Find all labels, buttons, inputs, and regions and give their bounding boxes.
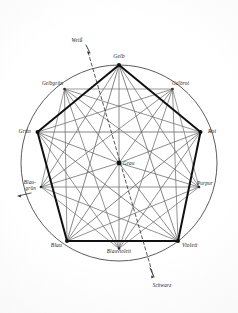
center-node-grau[interactable] [117, 161, 122, 166]
vertex-node-gelbgrün[interactable] [63, 88, 66, 91]
vertex-node-gelbrot[interactable] [171, 88, 174, 91]
label-schwarz: Schwarz [153, 282, 172, 288]
vertex-node-grün[interactable] [36, 130, 40, 134]
vertex-node-blaugrün[interactable] [40, 186, 43, 189]
farbenkreis-svg: GelbRotViolettBlauGrünGelbrotPurpurBlauv… [0, 0, 238, 313]
color-wheel-diagram: GelbRotViolettBlauGrünGelbrotPurpurBlauv… [0, 0, 238, 313]
vertex-node-blau[interactable] [65, 239, 69, 243]
vertex-node-gelb[interactable] [117, 63, 121, 67]
label-gelbrot: Gelbrot [172, 80, 189, 86]
label-violett: Violett [182, 242, 198, 248]
vertex-node-purpur[interactable] [198, 186, 201, 189]
label-purpur: Purpur [196, 180, 214, 186]
label-blau: Blau [51, 242, 62, 248]
label-gelb: Gelb [113, 53, 125, 59]
label-gelbgrn: Gelbgrün [42, 80, 63, 86]
vertex-node-violett[interactable] [176, 239, 180, 243]
vertex-node-rot[interactable] [199, 130, 203, 134]
label-grün: Grün [19, 128, 31, 134]
label-blauviolett: Blauviolett [107, 248, 132, 254]
label-blaugruen-line2: grün [26, 185, 37, 191]
label-grau: Grau [123, 160, 135, 166]
label-weiss: Weiß [72, 37, 83, 43]
label-rot: Rot [207, 128, 217, 134]
